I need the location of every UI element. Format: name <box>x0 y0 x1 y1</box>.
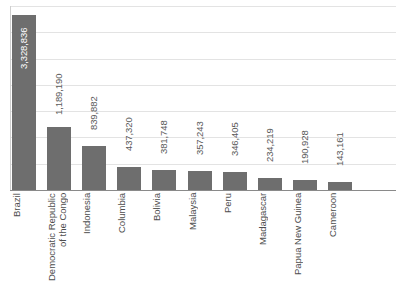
bar-value-label: 437,320 <box>117 103 141 165</box>
bar[interactable] <box>152 170 176 190</box>
bar[interactable] <box>117 167 141 190</box>
bar-group[interactable]: 1,189,190 <box>46 0 81 190</box>
bar-value-label: 1,189,190 <box>47 63 71 125</box>
bar-value-label: 346,405 <box>223 108 247 170</box>
category-label: Papua New Guinea <box>292 193 318 287</box>
bar[interactable] <box>188 171 212 190</box>
category-label: Bolivia <box>151 193 177 287</box>
category-label: Brazil <box>11 193 37 287</box>
category-label: Democratic Republic of the Congo <box>46 193 72 287</box>
bar-group[interactable]: 3,328,836 <box>11 0 46 190</box>
bar-value-label: 143,161 <box>328 118 352 180</box>
bar-group[interactable]: 143,161 <box>327 0 362 190</box>
x-axis-line <box>10 190 396 191</box>
bar-group[interactable]: 346,405 <box>222 0 257 190</box>
bar[interactable] <box>82 146 106 190</box>
bar[interactable] <box>328 182 352 190</box>
category-label: Peru <box>222 193 248 287</box>
bar-group[interactable]: 190,928 <box>292 0 327 190</box>
bar[interactable] <box>223 172 247 190</box>
bar[interactable] <box>258 178 282 190</box>
bar-group[interactable]: 839,882 <box>81 0 116 190</box>
category-label: Cameroon <box>327 193 353 287</box>
bar[interactable] <box>47 127 71 190</box>
bar-group[interactable]: 234,219 <box>257 0 292 190</box>
bar-chart: 3,328,8361,189,190839,882437,320381,7483… <box>0 0 398 289</box>
category-labels-layer: BrazilDemocratic Republic of the CongoIn… <box>11 193 398 289</box>
category-label: Madagascar <box>257 193 283 287</box>
bar[interactable] <box>293 180 317 190</box>
bar-value-label: 234,219 <box>258 114 282 176</box>
bar-group[interactable]: 381,748 <box>151 0 186 190</box>
bar-value-label: 3,328,836 <box>12 19 36 77</box>
bar-value-label: 357,243 <box>188 107 212 169</box>
category-label: Columbia <box>116 193 142 287</box>
bar-group[interactable]: 437,320 <box>116 0 151 190</box>
bar-group[interactable]: 357,243 <box>187 0 222 190</box>
category-label: Indonesia <box>81 193 107 287</box>
bar-value-label: 381,748 <box>152 106 176 168</box>
bar-value-label: 839,882 <box>82 82 106 144</box>
bars-layer: 3,328,8361,189,190839,882437,320381,7483… <box>11 0 398 190</box>
category-label: Malaysia <box>187 193 213 287</box>
bar-value-label: 190,928 <box>293 116 317 178</box>
